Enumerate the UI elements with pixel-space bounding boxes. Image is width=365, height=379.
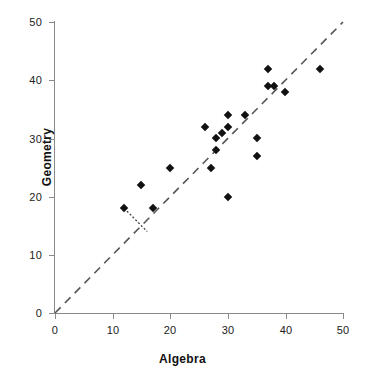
y-ticklabel-50: 50 [14, 17, 42, 28]
data-point [281, 88, 289, 96]
scatter-chart: 50 40 30 20 10 0 0 10 20 30 40 50 Geomet… [0, 0, 365, 379]
x-tick-20 [170, 314, 171, 319]
y-tick-50 [49, 22, 54, 23]
x-axis-line [54, 313, 344, 314]
data-point [264, 64, 272, 72]
data-point [316, 64, 324, 72]
y-tick-0 [49, 313, 54, 314]
data-point [224, 192, 232, 200]
data-point [166, 163, 174, 171]
data-point [270, 82, 278, 90]
data-point [241, 111, 249, 119]
y-ticklabel-10: 10 [14, 250, 42, 261]
x-tick-30 [228, 314, 229, 319]
x-tick-40 [286, 314, 287, 319]
y-ticklabel-0: 0 [14, 308, 42, 319]
x-tick-10 [113, 314, 114, 319]
data-point [120, 204, 128, 212]
x-ticklabel-0: 0 [40, 325, 70, 336]
x-ticklabel-20: 20 [155, 325, 185, 336]
data-point [252, 152, 260, 160]
x-tick-0 [55, 314, 56, 319]
y-ticklabel-20: 20 [14, 192, 42, 203]
y-tick-10 [49, 255, 54, 256]
plot-area [55, 22, 343, 313]
x-ticklabel-40: 40 [271, 325, 301, 336]
x-ticklabel-50: 50 [328, 325, 358, 336]
data-point [224, 123, 232, 131]
x-ticklabel-30: 30 [213, 325, 243, 336]
x-tick-50 [343, 314, 344, 319]
y-tick-40 [49, 80, 54, 81]
y-ticklabel-40: 40 [14, 75, 42, 86]
y-ticklabel-30: 30 [14, 134, 42, 145]
data-point [218, 128, 226, 136]
data-point [149, 204, 157, 212]
data-point [137, 181, 145, 189]
data-point [206, 163, 214, 171]
y-axis-title: Geometry [40, 102, 54, 212]
data-point [201, 123, 209, 131]
data-point [224, 111, 232, 119]
x-axis-title: Algebra [0, 352, 365, 366]
x-ticklabel-10: 10 [98, 325, 128, 336]
data-point [252, 134, 260, 142]
data-point [212, 146, 220, 154]
